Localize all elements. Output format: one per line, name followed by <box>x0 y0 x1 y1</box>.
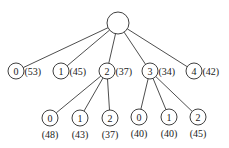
tree-node-2-0: 0(48) <box>42 110 59 141</box>
node-cost: (45) <box>70 66 87 78</box>
edge-root-to-0 <box>23 28 108 68</box>
edge-3-to-1 <box>153 78 166 109</box>
edge-2-to-2 <box>108 79 110 110</box>
edge-root-to-4 <box>127 29 187 67</box>
node-label: 0 <box>14 66 19 77</box>
node-cost: (42) <box>203 66 220 78</box>
node-cost: (40) <box>131 128 148 140</box>
tree-node-3-0: 0(40) <box>131 109 148 140</box>
tree-node-2: 2(37) <box>99 63 132 79</box>
tree-node-2-1: 1(43) <box>72 110 89 141</box>
node-cost: (40) <box>161 128 178 140</box>
root-node <box>107 12 129 34</box>
node-label: 4 <box>192 66 197 77</box>
node-label: 0 <box>48 113 53 124</box>
edge-3-to-0 <box>141 79 148 109</box>
edge-root-to-3 <box>124 32 145 64</box>
node-label: 1 <box>167 112 172 123</box>
node-cost: (53) <box>25 66 42 78</box>
node-cost: (34) <box>159 66 176 78</box>
tree-node-4: 4(42) <box>186 63 219 79</box>
node-cost: (43) <box>72 129 89 141</box>
node-cost: (37) <box>102 129 119 141</box>
tree-diagram: 0(53)1(45)2(37)3(34)4(42)0(48)1(43)2(37)… <box>0 0 229 148</box>
node-label: 2 <box>196 112 201 123</box>
edge-2-to-1 <box>84 78 103 111</box>
edge-root-to-1 <box>67 30 109 66</box>
node-label: 1 <box>78 113 83 124</box>
tree-node-2-2: 2(37) <box>102 110 119 141</box>
tree-node-3: 3(34) <box>142 63 175 79</box>
node-cost: (48) <box>42 129 59 141</box>
node-label: 3 <box>148 66 153 77</box>
node-cost: (37) <box>116 66 133 78</box>
node-label: 2 <box>105 66 110 77</box>
edge-2-to-0 <box>56 76 101 113</box>
node-label: 1 <box>59 66 64 77</box>
node-label: 2 <box>108 113 113 124</box>
tree-node-1: 1(45) <box>53 63 86 79</box>
edge-root-to-2 <box>109 34 116 63</box>
tree-nodes: 0(53)1(45)2(37)3(34)4(42)0(48)1(43)2(37)… <box>8 12 219 141</box>
node-label: 0 <box>137 112 142 123</box>
edge-3-to-2 <box>156 77 192 112</box>
node-cost: (45) <box>190 128 207 140</box>
tree-node-0: 0(53) <box>8 63 41 79</box>
tree-node-3-1: 1(40) <box>161 109 178 140</box>
tree-node-3-2: 2(45) <box>190 109 207 140</box>
